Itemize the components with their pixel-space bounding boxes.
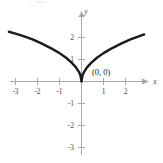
chart-svg: -3 -2 -1 1 2 2 1 -1 -2 -3 y x (0, 0) bbox=[0, 0, 163, 163]
x-tick-label-2: 2 bbox=[124, 87, 128, 96]
y-tick-label--1: -1 bbox=[68, 99, 74, 108]
curve-sqrt-abs-x bbox=[9, 32, 144, 82]
x-tick-label-1: 1 bbox=[102, 87, 106, 96]
top-artifact bbox=[36, 1, 45, 4]
x-axis-arrow-icon bbox=[142, 79, 149, 85]
chart-figure: -3 -2 -1 1 2 2 1 -1 -2 -3 y x (0, 0) bbox=[0, 0, 163, 163]
top-artifact-dot-2 bbox=[35, 5, 37, 7]
x-tick-label--1: -1 bbox=[56, 87, 62, 96]
x-tick-label--3: -3 bbox=[12, 87, 18, 96]
y-tick-label-2: 2 bbox=[70, 33, 74, 42]
y-tick-label--2: -2 bbox=[68, 121, 74, 130]
top-artifact-dot-3 bbox=[40, 5, 42, 7]
y-tick-label--3: -3 bbox=[68, 143, 74, 152]
x-axis-label: x bbox=[152, 77, 157, 86]
origin-point-label: (0, 0) bbox=[92, 67, 111, 77]
y-axis-label: y bbox=[83, 7, 88, 16]
x-tick-label--2: -2 bbox=[34, 87, 40, 96]
top-artifact-dot-1 bbox=[30, 5, 32, 7]
